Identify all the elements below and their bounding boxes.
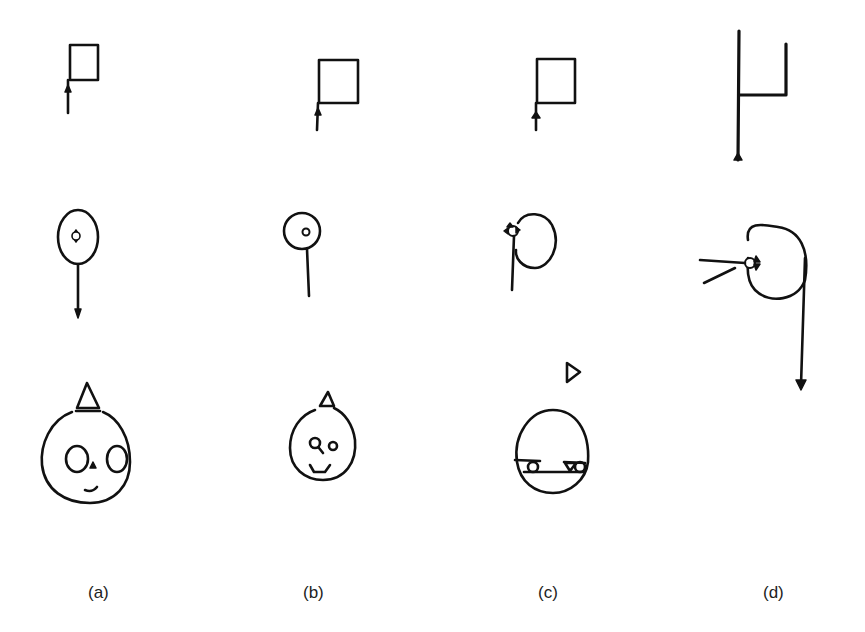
face-c [515, 363, 588, 493]
flag-d [734, 31, 786, 160]
drawing-figure [0, 0, 865, 632]
balloon-b [284, 213, 320, 296]
balloon-a [58, 210, 98, 318]
flag-b [315, 60, 358, 130]
flag-c [532, 59, 575, 130]
label-d: (d) [763, 583, 784, 603]
flag-a [65, 45, 98, 113]
label-c: (c) [538, 583, 558, 603]
balloon-c [504, 214, 556, 290]
face-b [290, 392, 355, 480]
face-a [42, 383, 130, 503]
label-a: (a) [88, 583, 109, 603]
balloon-d [700, 225, 806, 390]
label-b: (b) [303, 583, 324, 603]
